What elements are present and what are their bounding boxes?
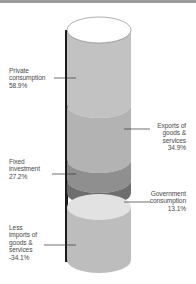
label-fixed-investment: Fixed investment 27.2% [9, 158, 40, 180]
imports-top [67, 194, 131, 220]
label-text: services [157, 137, 186, 144]
label-imports: Less imports of goods & services -34.1% [9, 224, 37, 261]
label-government-consumption: Government consumption 13.1% [150, 190, 186, 212]
label-text: consumption [9, 74, 45, 81]
label-text: Less [9, 224, 37, 231]
label-value: 34.9% [157, 144, 186, 151]
label-exports: Exports of goods & services 34.9% [157, 122, 186, 152]
label-text: goods & [9, 239, 37, 246]
label-value: 27.2% [9, 173, 40, 180]
label-value: -34.1% [9, 254, 37, 261]
label-text: imports of [9, 231, 37, 238]
label-text: Government [150, 190, 186, 197]
label-value: 13.1% [150, 205, 186, 212]
label-text: Fixed [9, 158, 40, 165]
label-text: investment [9, 165, 40, 172]
label-text: services [9, 246, 37, 253]
label-text: Private [9, 67, 45, 74]
label-text: consumption [150, 197, 186, 204]
label-private-consumption: Private consumption 58.9% [9, 67, 45, 89]
label-text: goods & [157, 129, 186, 136]
label-value: 58.9% [9, 82, 45, 89]
label-text: Exports of [157, 122, 186, 129]
